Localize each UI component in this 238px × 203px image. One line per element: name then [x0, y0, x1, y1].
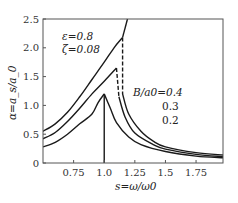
series-00.4-upper — [123, 19, 128, 37]
y-tick-label: 0 — [33, 158, 39, 169]
y-tick-label: 2.0 — [23, 42, 39, 53]
series-00.2-stable-left — [43, 94, 104, 147]
param-epsilon: ε=0.8 — [62, 30, 93, 42]
legend-title: B/a0=0.4 — [132, 86, 183, 98]
legend-value-0.2: 0.2 — [162, 114, 179, 126]
x-tick-label: 1.25 — [124, 167, 146, 178]
param-zeta: ζ=0.08 — [62, 43, 100, 55]
x-tick-label: 1.5 — [157, 167, 173, 178]
resonance-chart: 0.751.01.251.51.75 00.51.01.52.02.5 ε=0.… — [0, 0, 238, 203]
y-tick-label: 1.0 — [23, 100, 39, 111]
legend-value-0.3: 0.3 — [162, 100, 179, 112]
x-tick-label: 1.0 — [96, 167, 112, 178]
y-tick-label: 0.5 — [23, 129, 39, 140]
y-tick-label: 1.5 — [23, 71, 39, 82]
x-tick-label: 0.75 — [62, 167, 84, 178]
y-axis-label: α=a_s/a_0 — [6, 65, 19, 120]
y-tick-label: 2.5 — [23, 14, 39, 25]
series-00.3-unstable — [116, 68, 118, 97]
series-00.3-stable-left — [43, 68, 116, 139]
x-axis-label: s=ω/ω0 — [115, 180, 157, 192]
x-tick-label: 1.75 — [185, 167, 207, 178]
